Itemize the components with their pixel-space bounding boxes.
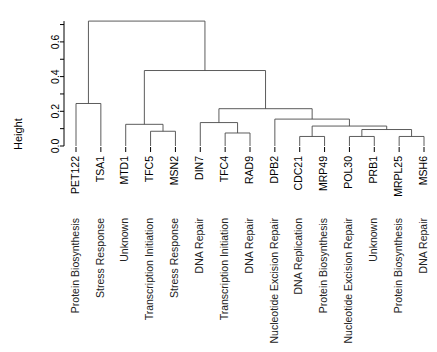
leaf-category-label: Unknown <box>118 218 130 262</box>
dendrogram-plot: 0.00.20.40.6 Height PET122TSA1MTD1TFC5MS… <box>0 0 437 352</box>
leaf-category-label: Unknown <box>367 218 379 262</box>
leaf-gene-label: TSA1 <box>94 156 106 182</box>
y-tick-label: 0.2 <box>49 104 61 119</box>
leaf-gene-label: MSH6 <box>417 156 429 185</box>
leaf-category-label: Stress Response <box>168 218 180 298</box>
y-axis-tick-labels: 0.00.20.40.6 <box>49 34 61 153</box>
y-tick-label: 0.4 <box>49 69 61 84</box>
leaf-gene-label: DPB2 <box>268 156 280 184</box>
leaf-gene-label: PET122 <box>69 156 81 194</box>
leaf-gene-labels: PET122TSA1MTD1TFC5MSN2DIN7TFC4RAD9DPB2CD… <box>69 156 429 197</box>
dendrogram-branch <box>225 133 250 146</box>
leaf-category-label: Stress Response <box>94 218 106 298</box>
leaf-gene-label: RAD9 <box>243 156 255 184</box>
leaf-gene-label: TFC5 <box>143 156 155 182</box>
y-axis: 0.00.20.40.6 Height <box>12 21 64 153</box>
leaf-gene-label: PRB1 <box>367 156 379 184</box>
leaf-category-label: DNA Repair <box>193 218 205 274</box>
leaf-category-label: DNA Repair <box>417 218 429 274</box>
dendrogram-branch <box>126 124 163 146</box>
leaf-gene-label: CDC21 <box>292 156 304 191</box>
leaf-gene-label: POL30 <box>342 156 354 189</box>
leaf-category-labels: Protein BiosynthesisStress ResponseUnkno… <box>69 218 429 344</box>
dendrogram-svg: 0.00.20.40.6 Height PET122TSA1MTD1TFC5MS… <box>0 0 437 352</box>
leaf-gene-label: DIN7 <box>193 156 205 180</box>
leaf-category-label: Nucleotide Excision Repair <box>342 218 354 344</box>
leaf-category-label: Transcription Initiation <box>218 218 230 320</box>
leaf-ticks <box>76 147 424 152</box>
leaf-category-label: Protein Biosynthesis <box>317 218 329 313</box>
dendrogram-branch <box>144 71 265 125</box>
dendrogram-branch <box>76 103 101 146</box>
leaf-gene-label: MTD1 <box>118 156 130 185</box>
leaf-gene-label: MSN2 <box>168 156 180 185</box>
y-tick-label: 0.0 <box>49 139 61 154</box>
dendrogram-branch <box>349 136 374 146</box>
leaf-category-label: DNA Replication <box>292 218 304 295</box>
y-tick-label: 0.6 <box>49 34 61 49</box>
y-axis-title: Height <box>12 118 24 150</box>
dendrogram-branch <box>88 21 205 103</box>
leaf-gene-label: TFC4 <box>218 156 230 182</box>
dendrogram-branch <box>151 131 176 146</box>
dendrogram-branch <box>219 109 312 123</box>
leaf-category-label: DNA Repair <box>243 218 255 274</box>
leaf-gene-label: MRPL25 <box>392 156 404 197</box>
leaf-category-label: Protein Biosynthesis <box>69 218 81 313</box>
leaf-gene-label: MRP49 <box>317 156 329 191</box>
dendrogram-branch <box>312 126 387 136</box>
dendrogram-branch <box>362 130 412 137</box>
dendrogram-branch <box>399 136 424 146</box>
leaf-category-label: Nucleotide Excision Repair <box>268 218 280 344</box>
dendrogram-branch <box>300 136 325 146</box>
leaf-category-label: Transcription Initiation <box>143 218 155 320</box>
leaf-category-label: Protein Biosynthesis <box>392 218 404 313</box>
dendrogram-branches <box>76 21 424 146</box>
dendrogram-branch <box>200 123 237 146</box>
